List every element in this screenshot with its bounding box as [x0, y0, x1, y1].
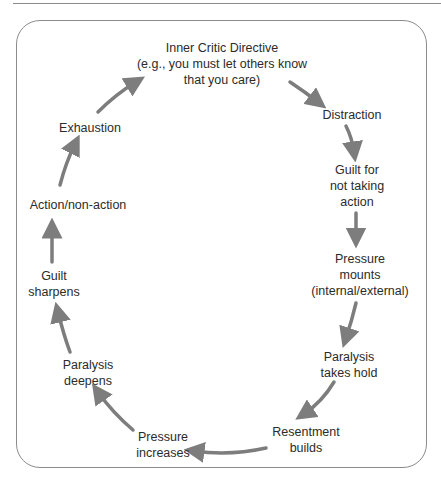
node-pressure-increases: Pressure increases [136, 429, 190, 461]
node-inner-critic-directive: Inner Critic Directive (e.g., you must l… [137, 40, 307, 88]
arrow-pressure-mounts-to-paralysis-takes-hold [346, 303, 356, 338]
arrow-exhaustion-to-inner-critic-directive [98, 82, 136, 112]
arrow-resentment-builds-to-pressure-increases [194, 448, 266, 453]
node-paralysis-deepens: Paralysis deepens [63, 357, 114, 389]
arrow-paralysis-deepens-to-guilt-sharpens [58, 312, 70, 352]
node-pressure-mounts: Pressure mounts (internal/external) [311, 251, 408, 299]
arrow-pressure-increases-to-paralysis-deepens [98, 392, 133, 430]
node-exhaustion: Exhaustion [59, 120, 121, 136]
node-resentment-builds: Resentment builds [272, 424, 339, 456]
node-distraction: Distraction [322, 107, 381, 123]
node-action-non-action: Action/non-action [30, 197, 127, 213]
arrow-distraction-to-guilt-for-not-taking-action [346, 126, 354, 152]
node-paralysis-takes-hold: Paralysis takes hold [321, 349, 378, 381]
node-guilt-for-not-taking-action: Guilt for not taking action [330, 162, 384, 210]
node-guilt-sharpens: Guilt sharpens [28, 268, 79, 300]
arrow-action-non-action-to-exhaustion [60, 144, 75, 185]
arrow-paralysis-takes-hold-to-resentment-builds [304, 382, 334, 414]
